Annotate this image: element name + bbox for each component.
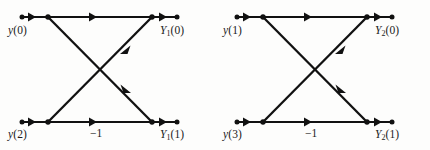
node-input-bottom <box>20 120 25 125</box>
node-output-bottom <box>175 120 180 125</box>
label-output-Y1-1-index: (1) <box>171 128 185 140</box>
node-input-bottom <box>235 120 240 125</box>
butterfly-right <box>235 13 395 127</box>
node-sum-bottom <box>364 119 369 124</box>
node-output-top <box>390 15 395 20</box>
arrow-output-bottom <box>374 118 382 127</box>
node-sum-top <box>364 14 369 19</box>
node-output-top <box>175 15 180 20</box>
arrow-mid-bottom <box>304 118 312 127</box>
arrow-output-top <box>159 13 167 22</box>
label-input-y3-index: (3) <box>228 128 242 140</box>
label-output-Y2-0-index: (0) <box>386 24 400 36</box>
butterfly-left <box>20 13 180 127</box>
label-output-Y1-1: Y1(1) <box>160 129 184 142</box>
label-output-Y1-0: Y1(0) <box>160 25 184 38</box>
arrow-input-bottom <box>28 118 36 127</box>
node-output-bottom <box>390 120 395 125</box>
label-output-Y1-0-index: (0) <box>171 24 185 36</box>
label-output-Y2-1-index: (1) <box>386 128 400 140</box>
label-input-y2-index: (2) <box>13 128 27 140</box>
label-input-y3: y(3) <box>223 129 242 141</box>
arrow-output-bottom <box>159 118 167 127</box>
arrow-mid-top <box>304 13 312 22</box>
label-input-y0-index: (0) <box>13 24 27 36</box>
label-output-Y2-0: Y2(0) <box>375 25 399 38</box>
arrow-mid-bottom <box>89 118 97 127</box>
label-coefficient-left: −1 <box>90 128 102 140</box>
arrow-input-top <box>28 13 36 22</box>
label-coefficient-right: −1 <box>305 128 317 140</box>
arrow-output-top <box>374 13 382 22</box>
node-split-top <box>260 14 265 19</box>
label-input-y1: y(1) <box>223 25 242 37</box>
node-split-bottom <box>260 119 265 124</box>
arrow-mid-top <box>89 13 97 22</box>
label-output-Y2-1: Y2(1) <box>375 129 399 142</box>
arrow-input-top <box>243 13 251 22</box>
label-input-y2: y(2) <box>8 129 27 141</box>
label-input-y1-index: (1) <box>228 24 242 36</box>
node-sum-bottom <box>149 119 154 124</box>
node-input-top <box>235 15 240 20</box>
figure-canvas: y(0) y(2) Y1(0) Y1(1) −1 y(1) y(3) Y2(0)… <box>0 0 430 150</box>
node-split-bottom <box>45 119 50 124</box>
node-sum-top <box>149 14 154 19</box>
node-input-top <box>20 15 25 20</box>
signal-flow-graph <box>0 0 430 150</box>
node-split-top <box>45 14 50 19</box>
label-input-y0: y(0) <box>8 25 27 37</box>
arrow-input-bottom <box>243 118 251 127</box>
